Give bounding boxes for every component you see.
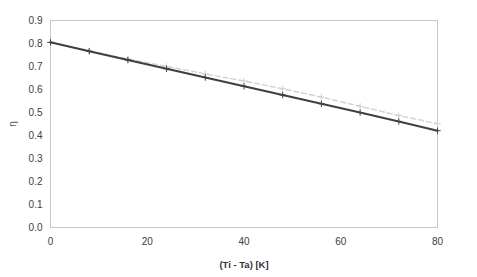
y-tick-label: 0.0 [29, 222, 43, 233]
chart-container: 0.00.10.20.30.40.50.60.70.80.9 020406080… [0, 0, 477, 277]
y-tick-label: 0.5 [29, 107, 43, 118]
x-tick-label: 20 [142, 236, 154, 247]
y-axis-title: η [7, 121, 18, 127]
line-chart: 0.00.10.20.30.40.50.60.70.80.9 020406080… [0, 0, 477, 277]
x-tick-label: 40 [238, 236, 250, 247]
x-tick-label: 60 [335, 236, 347, 247]
x-tick-label: 0 [48, 236, 54, 247]
y-tick-label: 0.3 [29, 153, 43, 164]
y-tick-label: 0.1 [29, 199, 43, 210]
y-tick-label: 0.8 [29, 38, 43, 49]
y-tick-label: 0.7 [29, 61, 43, 72]
y-tick-label: 0.9 [29, 15, 43, 26]
x-tick-label: 80 [432, 236, 444, 247]
y-tick-label: 0.2 [29, 176, 43, 187]
y-tick-label: 0.6 [29, 84, 43, 95]
x-axis-title: (Ti - Ta) [K] [219, 259, 268, 270]
y-tick-label: 0.4 [29, 130, 43, 141]
